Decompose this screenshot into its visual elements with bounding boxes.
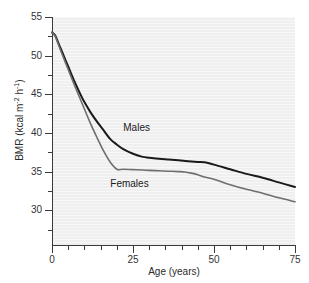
x-axis-line bbox=[52, 245, 296, 246]
y-axis-title-sup2: -1 bbox=[13, 83, 20, 89]
x-tick-minor bbox=[230, 246, 231, 250]
y-tick-major bbox=[45, 56, 52, 57]
y-tick-minor bbox=[48, 191, 52, 192]
y-axis-title-prefix: BMR (kcal m bbox=[14, 104, 25, 161]
y-tick-minor bbox=[48, 75, 52, 76]
y-tick-minor bbox=[48, 152, 52, 153]
y-axis-line bbox=[52, 17, 53, 246]
y-tick-minor bbox=[48, 36, 52, 37]
y-axis-title: BMR (kcal m-2 h-1) bbox=[13, 40, 25, 200]
x-tick-label: 0 bbox=[37, 254, 67, 265]
x-tick-minor bbox=[279, 246, 280, 250]
y-tick-label: 55 bbox=[16, 12, 42, 22]
x-tick-label: 50 bbox=[199, 254, 229, 265]
x-tick-minor bbox=[84, 246, 85, 250]
y-tick-major bbox=[45, 133, 52, 134]
x-axis-title: Age (years) bbox=[52, 266, 296, 277]
x-tick-minor bbox=[117, 246, 118, 250]
y-tick-major bbox=[45, 210, 52, 211]
x-tick-major bbox=[52, 246, 53, 253]
x-tick-minor bbox=[165, 246, 166, 250]
x-tick-minor bbox=[263, 246, 264, 250]
x-tick-minor bbox=[246, 246, 247, 250]
x-tick-label: 75 bbox=[280, 254, 309, 265]
x-tick-minor bbox=[149, 246, 150, 250]
series-label-males: Males bbox=[123, 122, 150, 133]
x-tick-label: 25 bbox=[118, 254, 148, 265]
x-tick-minor bbox=[101, 246, 102, 250]
chart-figure: 303540455055 0255075 BMR (kcal m-2 h-1) … bbox=[0, 0, 309, 283]
y-axis-title-mid: h bbox=[14, 89, 25, 97]
plot-background bbox=[52, 17, 295, 245]
x-tick-minor bbox=[182, 246, 183, 250]
x-tick-minor bbox=[198, 246, 199, 250]
x-tick-major bbox=[295, 246, 296, 253]
x-tick-major bbox=[133, 246, 134, 253]
x-tick-minor bbox=[68, 246, 69, 250]
y-axis-title-suffix: ) bbox=[14, 79, 25, 82]
y-tick-minor bbox=[48, 114, 52, 115]
y-tick-minor bbox=[48, 230, 52, 231]
y-axis-title-sup1: -2 bbox=[13, 97, 20, 103]
y-tick-major bbox=[45, 17, 52, 18]
series-label-females: Females bbox=[110, 178, 148, 189]
y-tick-major bbox=[45, 172, 52, 173]
x-tick-major bbox=[214, 246, 215, 253]
y-tick-label: 30 bbox=[16, 205, 42, 215]
y-tick-major bbox=[45, 94, 52, 95]
